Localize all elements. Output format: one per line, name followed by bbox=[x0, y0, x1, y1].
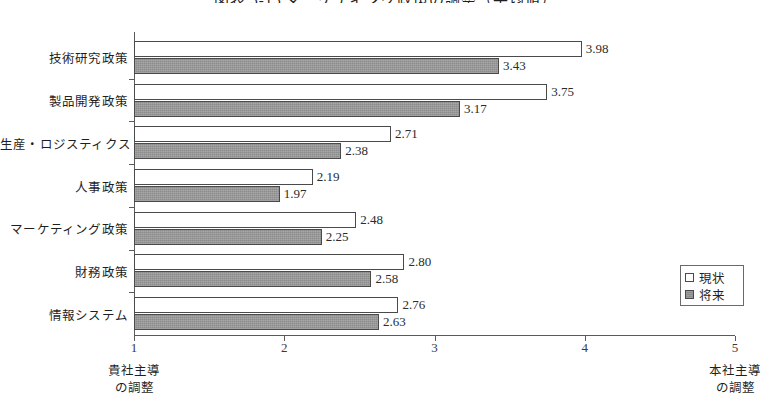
category-label: 財務政策 bbox=[0, 262, 128, 281]
bar-now bbox=[134, 126, 391, 142]
category-label: 技術研究政策 bbox=[0, 48, 128, 67]
chart-container: 図表 5-15 マーケティング政策の調整（平均値） 3.983.433.753.… bbox=[0, 0, 771, 416]
x-tick-label: 4 bbox=[582, 340, 589, 356]
y-tick-mark bbox=[129, 292, 134, 293]
y-tick-mark bbox=[129, 207, 134, 208]
bar-value-label: 3.43 bbox=[503, 58, 526, 74]
bar-value-label: 2.58 bbox=[375, 271, 398, 287]
bar-value-label: 3.17 bbox=[464, 101, 487, 117]
bar-future bbox=[134, 229, 322, 245]
bar-value-label: 2.76 bbox=[402, 297, 425, 313]
bar-value-label: 3.98 bbox=[586, 41, 609, 57]
axis-caption-left-line2: の調整 bbox=[86, 380, 182, 397]
y-tick-mark bbox=[129, 121, 134, 122]
axis-caption-left-line1: 貴社主導 bbox=[86, 363, 182, 380]
bar-value-label: 2.63 bbox=[383, 314, 406, 330]
bar-future bbox=[134, 101, 460, 117]
axis-caption-right: 本社主導 の調整 bbox=[687, 363, 771, 397]
bar-now bbox=[134, 212, 356, 228]
bar-value-label: 2.19 bbox=[317, 169, 340, 185]
axis-caption-left: 貴社主導 の調整 bbox=[86, 363, 182, 397]
bar-now bbox=[134, 41, 582, 57]
bar-value-label: 2.71 bbox=[395, 126, 418, 142]
x-tick-label: 2 bbox=[281, 340, 288, 356]
category-label: 人事政策 bbox=[0, 177, 128, 196]
legend-label-future: 将来 bbox=[699, 285, 725, 304]
category-label: 生産・ロジスティクス bbox=[0, 134, 128, 153]
white-square-icon bbox=[685, 273, 694, 282]
category-label: マーケティング政策 bbox=[0, 219, 128, 238]
y-tick-mark bbox=[129, 79, 134, 80]
category-label: 情報システム bbox=[0, 305, 128, 324]
bar-value-label: 1.97 bbox=[284, 186, 307, 202]
gray-square-icon bbox=[685, 290, 694, 299]
bar-future bbox=[134, 143, 341, 159]
bar-now bbox=[134, 169, 313, 185]
bar-value-label: 2.38 bbox=[345, 143, 368, 159]
bar-now bbox=[134, 297, 398, 313]
plot-area: 3.983.433.753.172.712.382.191.972.482.25… bbox=[134, 36, 735, 335]
bar-value-label: 2.80 bbox=[408, 254, 431, 270]
chart-legend: 現状 将来 bbox=[680, 265, 744, 306]
y-tick-mark bbox=[129, 164, 134, 165]
bar-future bbox=[134, 314, 379, 330]
axis-caption-right-line1: 本社主導 bbox=[687, 363, 771, 380]
bar-value-label: 3.75 bbox=[551, 84, 574, 100]
y-tick-mark bbox=[129, 250, 134, 251]
legend-item-future: 将来 bbox=[685, 286, 739, 303]
legend-item-now: 現状 bbox=[685, 269, 739, 286]
bar-now bbox=[134, 84, 547, 100]
x-tick-label: 3 bbox=[431, 340, 438, 356]
bar-future bbox=[134, 271, 371, 287]
bar-future bbox=[134, 58, 499, 74]
bar-future bbox=[134, 186, 280, 202]
bar-now bbox=[134, 254, 404, 270]
category-label: 製品開発政策 bbox=[0, 91, 128, 110]
chart-title: 図表 5-15 マーケティング政策の調整（平均値） bbox=[0, 0, 771, 3]
bar-value-label: 2.25 bbox=[326, 229, 349, 245]
x-tick-label: 1 bbox=[131, 340, 138, 356]
x-tick-label: 5 bbox=[732, 340, 739, 356]
bar-value-label: 2.48 bbox=[360, 212, 383, 228]
axis-caption-right-line2: の調整 bbox=[687, 380, 771, 397]
